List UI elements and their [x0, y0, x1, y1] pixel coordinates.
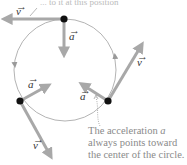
particle-dot-top	[60, 15, 67, 22]
acceleration-arrow-bottom-left	[20, 86, 47, 101]
particle-dot-right	[104, 97, 111, 104]
caption-line-1: The acceleration a	[88, 125, 166, 136]
leader-line-top	[30, 8, 37, 16]
particle-dot-bottom-left	[16, 97, 23, 104]
vec-arrow-icon: →	[16, 0, 27, 12]
caption-line-2: always points toward	[88, 137, 178, 148]
vec-arrow-icon: →	[80, 84, 91, 96]
caption-leader-line	[96, 97, 100, 126]
caption-line-3: the center of the circle.	[88, 149, 184, 160]
point-top: v → a →	[6, 0, 80, 53]
caption: The acceleration a always points toward …	[88, 125, 184, 160]
vec-arrow-icon: →	[28, 72, 39, 84]
vec-arrow-icon: →	[69, 24, 80, 36]
top-text-fragment: ... to it at this position	[40, 0, 119, 7]
circular-motion-diagram: ... to it at this position v → a → a → v…	[0, 0, 187, 165]
point-bottom-left: a → v →	[16, 72, 50, 155]
vec-arrow-icon: →	[33, 133, 44, 145]
vec-arrow-icon: →	[137, 50, 148, 62]
